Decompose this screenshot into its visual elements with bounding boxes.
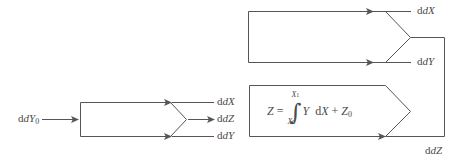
integral-upper-limit: X1 (291, 91, 299, 99)
feedback-path (411, 38, 445, 137)
bottom-right-chevron-edge (386, 86, 411, 137)
left-block-outline (81, 103, 187, 137)
formula-plus: + (332, 104, 339, 118)
formula-lhs: Z (267, 104, 274, 118)
feedback-connector (411, 38, 445, 137)
label-top-right-dx: ddX (417, 5, 435, 16)
label-bottom-right-dz: ddZ (425, 145, 442, 156)
left-block-output-arrows (172, 103, 214, 137)
formula-differential: dX (312, 104, 328, 118)
top-right-chevron-edge (386, 12, 411, 63)
integral-symbol-group: X1 ∫ X0 (286, 105, 299, 119)
label-left-out-dy: ddY (217, 130, 234, 141)
label-top-right-dy: ddY (417, 56, 434, 67)
label-dy0: ddY0 (18, 113, 39, 126)
integral-formula: Z = X1 ∫ X0 Y dX + Z0 (267, 105, 352, 119)
formula-integrand: Y (302, 104, 309, 118)
top-right-block-outline (249, 12, 411, 63)
label-left-out-dx: ddX (217, 96, 235, 107)
formula-equals: = (277, 104, 284, 118)
figure-canvas: ddY0 ddX ddZ ddY ddX ddY ddZ Z = X1 ∫ X0… (0, 0, 462, 164)
formula-constant: Z0 (341, 104, 352, 118)
label-left-out-dz: ddZ (217, 113, 234, 124)
integral-lower-limit: X0 (287, 118, 295, 126)
left-block-chevron-edge (171, 103, 187, 137)
